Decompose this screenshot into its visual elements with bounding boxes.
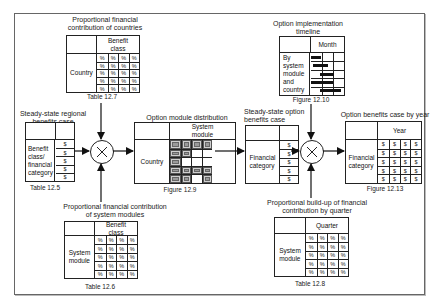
flow-arrows [0, 0, 438, 308]
